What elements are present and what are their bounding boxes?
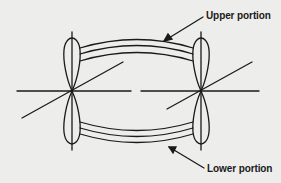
right-y-axis [167,62,252,109]
upper-portion-arrow [164,17,203,41]
upper-portion-label: Upper portion [206,10,271,21]
right-p-orbital [141,32,259,150]
pi-bond-diagram: Upper portion Lower portion [0,0,281,183]
lower-portion-arcs [80,122,193,143]
left-p-orbital [17,32,131,150]
upper-portion-arcs [80,40,193,62]
lower-portion-label: Lower portion [207,163,272,174]
lower-portion-arrow [169,147,204,168]
orbital-overlap-drawing [0,0,281,183]
